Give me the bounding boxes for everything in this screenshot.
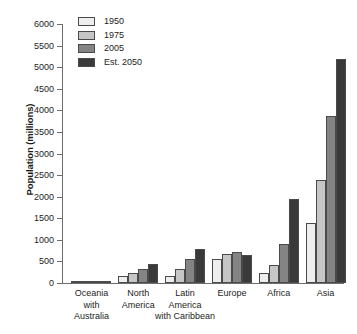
legend-label: 2005 <box>104 43 124 54</box>
bar <box>326 116 336 283</box>
legend-label: 1975 <box>104 30 124 41</box>
bar <box>336 59 346 283</box>
y-axis-tick-label: 500 <box>2 257 54 266</box>
y-axis-tick-label: 3000 <box>2 150 54 159</box>
y-axis-tick-label: 2000 <box>2 193 54 202</box>
x-axis-label: Asia <box>281 288 357 300</box>
legend-label: Est. 2050 <box>104 57 142 68</box>
legend-swatch <box>78 44 95 53</box>
bar <box>212 259 222 283</box>
y-axis-tick-label: 1000 <box>2 236 54 245</box>
bar <box>269 265 279 283</box>
bar <box>175 269 185 283</box>
bar <box>138 269 148 283</box>
bar <box>71 281 81 283</box>
bar <box>279 244 289 283</box>
legend-swatch <box>78 17 95 26</box>
bar <box>148 264 158 283</box>
bar <box>81 281 91 283</box>
bar <box>91 281 101 283</box>
bar-group <box>165 24 205 283</box>
bar <box>242 255 252 283</box>
bar-group <box>306 24 346 283</box>
bar <box>259 273 269 283</box>
legend-label: 1950 <box>104 16 124 27</box>
y-axis-tick-label: 5000 <box>2 63 54 72</box>
y-axis-tick-label: 3500 <box>2 128 54 137</box>
legend-swatch <box>78 58 95 67</box>
y-axis-tick-label: 4000 <box>2 106 54 115</box>
bar-group <box>259 24 299 283</box>
bar <box>118 276 128 283</box>
bar <box>165 276 175 283</box>
x-axis-line <box>62 283 344 284</box>
y-axis-tick <box>57 283 62 284</box>
y-axis-tick-label: 2500 <box>2 171 54 180</box>
y-axis-tick-label: 1500 <box>2 214 54 223</box>
bar <box>289 199 299 283</box>
bar <box>232 252 242 283</box>
population-bar-chart: Population (millions) 600055005000450040… <box>0 0 357 334</box>
bar <box>306 223 316 283</box>
bar <box>195 249 205 283</box>
bar-group <box>212 24 252 283</box>
bar <box>101 281 111 283</box>
y-axis-tick-label: 6000 <box>2 20 54 29</box>
bar <box>185 259 195 283</box>
y-axis-tick-label: 5500 <box>2 42 54 51</box>
bar <box>222 254 232 283</box>
y-axis-tick-label: 0 <box>2 279 54 288</box>
bar <box>128 273 138 283</box>
bar <box>316 180 326 283</box>
y-axis-tick-label: 4500 <box>2 85 54 94</box>
legend-swatch <box>78 31 95 40</box>
